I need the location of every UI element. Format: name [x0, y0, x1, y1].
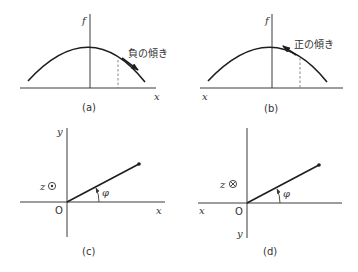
panel-b: f x 正の傾き (b)	[200, 14, 343, 114]
x-axis-label: x	[202, 91, 208, 102]
panel-caption: (a)	[82, 102, 96, 113]
negative-slope-arrow	[122, 58, 138, 70]
angle-label: φ	[102, 187, 109, 198]
z-out-of-page-icon	[48, 182, 55, 189]
panel-caption: (d)	[263, 246, 277, 257]
slope-label: 負の傾き	[128, 47, 168, 59]
panel-c: y x O φ z (c)	[20, 126, 165, 257]
x-axis-label: x	[154, 91, 160, 102]
origin-label: O	[235, 206, 243, 217]
panel-caption: (b)	[264, 103, 278, 114]
z-axis-label: z	[219, 179, 226, 190]
angle-label: φ	[283, 188, 290, 199]
angle-arc	[277, 189, 280, 203]
angle-arc	[96, 188, 99, 202]
y-axis-label: y	[236, 228, 243, 239]
f-axis-label: f	[81, 15, 88, 26]
y-axis-label: y	[56, 126, 63, 137]
parabola-curve	[208, 47, 327, 82]
vector-endpoint	[317, 163, 321, 167]
diagram-canvas: f x 負の傾き (a) f x 正の傾き (b) y x O φ z (c)	[0, 0, 358, 272]
z-into-page-icon	[229, 180, 236, 187]
origin-label: O	[55, 205, 63, 216]
slope-label: 正の傾き	[294, 38, 334, 50]
x-axis-label: x	[199, 205, 205, 216]
panel-a: f x 負の傾き (a)	[20, 14, 168, 113]
panel-d: x y O φ z (d)	[198, 128, 342, 257]
x-axis-label: x	[156, 205, 162, 216]
f-axis-label: f	[264, 15, 271, 26]
vector-endpoint	[137, 162, 141, 166]
panel-caption: (c)	[82, 246, 95, 257]
z-axis-label: z	[39, 181, 46, 192]
